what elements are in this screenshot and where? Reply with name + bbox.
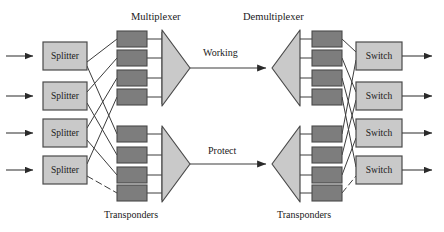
splitter-3-label: Splitter (51, 128, 80, 138)
transponder-rw-2[interactable] (312, 50, 342, 66)
link-s1-p1 (87, 66, 117, 134)
transponder-lp-3[interactable] (117, 167, 147, 183)
left-transponder-mux-stubs (147, 32, 162, 200)
transponder-lp-2[interactable] (117, 147, 147, 163)
multiplexer-working[interactable] (162, 30, 190, 106)
link-s1-w1 (87, 39, 117, 62)
transponders-left-protect (117, 126, 147, 201)
output-arrows (402, 56, 432, 170)
demultiplexer-protect[interactable] (272, 126, 300, 202)
switch-group: Switch Switch Switch Switch (356, 42, 402, 184)
link-s4-w4 (87, 97, 117, 164)
transponder-lw-4[interactable] (117, 89, 147, 105)
splitter-3[interactable]: Splitter (43, 119, 87, 147)
splitter-1[interactable]: Splitter (43, 42, 87, 70)
multiplexer-label: Multiplexer (131, 12, 181, 23)
transponder-lp-4[interactable] (117, 185, 147, 201)
transponder-rw-4[interactable] (312, 89, 342, 105)
switch-1-label: Switch (366, 51, 393, 61)
link-rp4-sw4 (342, 176, 356, 193)
transponder-lw-3[interactable] (117, 70, 147, 86)
link-s2-p2 (87, 103, 117, 155)
transponders-right-working (312, 31, 342, 105)
demux-transponder-stubs (300, 39, 312, 193)
link-s4-p4 (87, 176, 117, 193)
transponder-lw-1[interactable] (117, 31, 147, 47)
demultiplexer-label: Demultiplexer (243, 12, 304, 23)
transponder-rp-4[interactable] (312, 185, 342, 201)
transponders-left-label: Transponders (104, 210, 158, 220)
multiplexer-protect[interactable] (162, 126, 190, 202)
protect-path-label: Protect (208, 146, 236, 156)
demultiplexer-working[interactable] (272, 30, 300, 106)
splitter-2[interactable]: Splitter (43, 82, 87, 110)
transponders-left-working (117, 31, 147, 105)
link-s3-p3 (87, 140, 117, 175)
splitter-to-transponder-links (87, 39, 117, 193)
transponder-rp-2[interactable] (312, 147, 342, 163)
switch-1[interactable]: Switch (356, 42, 402, 70)
splitter-4-label: Splitter (51, 165, 80, 175)
switch-4-label: Switch (366, 165, 393, 175)
switch-2[interactable]: Switch (356, 82, 402, 110)
working-path-label: Working (203, 48, 238, 58)
transponder-rw-1[interactable] (312, 31, 342, 47)
splitter-group: Splitter Splitter Splitter Splitter (43, 42, 87, 184)
link-s3-w3 (87, 78, 117, 128)
transponder-rp-3[interactable] (312, 167, 342, 183)
figure-canvas: Splitter Splitter Splitter Splitter (0, 0, 444, 232)
network-diagram: Splitter Splitter Splitter Splitter (0, 0, 444, 232)
splitter-2-label: Splitter (51, 91, 80, 101)
transponder-rw-3[interactable] (312, 70, 342, 86)
switch-4[interactable]: Switch (356, 156, 402, 184)
transponders-right-label: Transponders (277, 210, 331, 220)
transponder-to-switch-links (342, 39, 356, 193)
transponder-rp-1[interactable] (312, 126, 342, 142)
input-arrows (6, 56, 33, 170)
splitter-4[interactable]: Splitter (43, 156, 87, 184)
switch-3[interactable]: Switch (356, 119, 402, 147)
transponder-lw-2[interactable] (117, 50, 147, 66)
switch-2-label: Switch (366, 91, 393, 101)
switch-3-label: Switch (366, 128, 393, 138)
transponders-right-protect (312, 126, 342, 201)
splitter-1-label: Splitter (51, 51, 80, 61)
transponder-lp-1[interactable] (117, 126, 147, 142)
link-rw1-sw1 (342, 39, 356, 52)
